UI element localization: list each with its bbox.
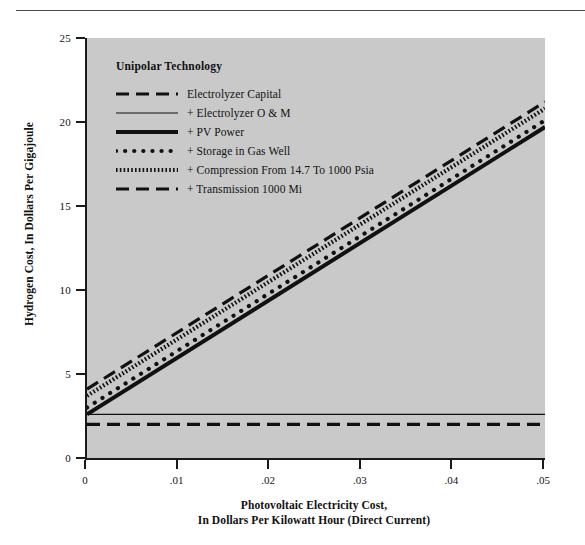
legend-item: + Storage in Gas Well xyxy=(116,141,446,160)
x-tick-label: 0 xyxy=(82,474,88,486)
x-tick-label: .04 xyxy=(445,474,459,486)
legend-label: + Compression From 14.7 To 1000 Psia xyxy=(187,164,374,176)
y-tick-label: 10 xyxy=(60,284,71,296)
legend-item: + Electrolyzer O & M xyxy=(116,103,446,122)
x-tick-label: .01 xyxy=(170,474,184,486)
x-axis-title-line1: Photovoltaic Electricity Cost, xyxy=(85,498,543,513)
y-tick-mark xyxy=(76,289,85,291)
legend-label: + PV Power xyxy=(187,126,244,138)
legend-item: Electrolyzer Capital xyxy=(116,84,446,103)
legend-swatch-dashed-icon xyxy=(116,88,178,100)
legend-rows: Electrolyzer Capital+ Electrolyzer O & M… xyxy=(116,84,446,198)
x-tick-label: .02 xyxy=(261,474,275,486)
legend-label: + Storage in Gas Well xyxy=(187,145,290,157)
y-tick-mark xyxy=(76,121,85,123)
legend-item: + Transmission 1000 Mi xyxy=(116,179,446,198)
x-axis-title: Photovoltaic Electricity Cost, In Dollar… xyxy=(85,498,543,528)
legend-title: Unipolar Technology xyxy=(116,60,446,72)
y-tick-mark xyxy=(76,205,85,207)
legend-item: + Compression From 14.7 To 1000 Psia xyxy=(116,160,446,179)
y-tick-label: 5 xyxy=(65,368,71,380)
y-tick-mark xyxy=(76,457,85,459)
y-tick-label: 15 xyxy=(60,200,71,212)
legend-swatch-thin-solid-icon xyxy=(116,107,178,119)
x-tick-label: .05 xyxy=(536,474,550,486)
x-axis-title-line2: In Dollars Per Kilowatt Hour (Direct Cur… xyxy=(85,513,543,528)
legend-label: Electrolyzer Capital xyxy=(187,88,281,100)
legend-label: + Transmission 1000 Mi xyxy=(187,183,302,195)
x-tick-mark xyxy=(542,460,544,469)
legend-swatch-hatched-icon xyxy=(116,164,178,176)
chart-legend: Unipolar Technology Electrolyzer Capital… xyxy=(116,60,446,198)
x-tick-mark xyxy=(359,460,361,469)
legend-label: + Electrolyzer O & M xyxy=(187,107,291,119)
x-tick-mark xyxy=(84,460,86,469)
legend-swatch-thick-solid-icon xyxy=(116,126,178,138)
legend-swatch-dashed-icon xyxy=(116,183,178,195)
x-tick-mark xyxy=(176,460,178,469)
chart-figure: Hydrogen Cost, In Dollars Per Gigajoule … xyxy=(0,0,585,545)
y-tick-label: 0 xyxy=(65,452,71,464)
legend-swatch-dotted-icon xyxy=(116,145,178,157)
y-tick-mark xyxy=(76,373,85,375)
x-tick-mark xyxy=(450,460,452,469)
y-axis-title: Hydrogen Cost, In Dollars Per Gigajoule xyxy=(23,14,35,434)
y-tick-label: 20 xyxy=(60,116,71,128)
y-tick-label: 25 xyxy=(60,32,71,44)
x-tick-mark xyxy=(267,460,269,469)
y-tick-mark xyxy=(76,37,85,39)
x-tick-label: .03 xyxy=(353,474,367,486)
legend-item: + PV Power xyxy=(116,122,446,141)
